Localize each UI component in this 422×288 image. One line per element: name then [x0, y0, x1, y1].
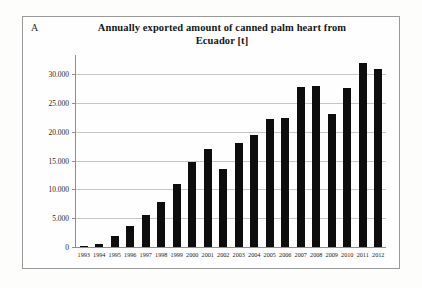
bar	[126, 226, 134, 247]
x-axis-label: 2008	[310, 251, 322, 258]
x-axis-label: 1996	[124, 251, 136, 258]
bar	[157, 202, 165, 247]
bar	[111, 236, 119, 248]
bar-series	[76, 60, 386, 247]
bar	[374, 69, 382, 247]
y-axis-label: 10.000	[48, 185, 69, 194]
panel-label: A	[31, 22, 38, 33]
x-axis-label: 2006	[279, 251, 291, 258]
bar	[250, 135, 258, 247]
figure-container: A Annually exported amount of canned pal…	[0, 0, 422, 288]
bar	[219, 169, 227, 247]
plot-area: 05.00010.00015.00020.00025.00030.000 199…	[76, 60, 386, 247]
x-axis-label: 1993	[78, 251, 90, 258]
x-axis-label: 2007	[295, 251, 307, 258]
x-axis-label: 2011	[357, 251, 369, 258]
bar	[297, 87, 305, 247]
bar	[235, 143, 243, 247]
x-axis-label: 1999	[171, 251, 183, 258]
bar	[173, 184, 181, 247]
y-axis-label: 5.000	[52, 214, 69, 223]
y-axis-label: 20.000	[48, 127, 69, 136]
bar	[312, 86, 320, 247]
chart-title-line-2: Ecuador [t]	[57, 34, 387, 47]
bar	[328, 114, 336, 247]
x-axis-label: 2012	[372, 251, 384, 258]
y-axis-label: 0	[65, 243, 69, 252]
chart-title-line-1: Annually exported amount of canned palm …	[57, 21, 387, 34]
bar	[266, 119, 274, 247]
x-axis-label: 2010	[341, 251, 353, 258]
x-axis-label: 1997	[140, 251, 152, 258]
x-axis-label: 1994	[93, 251, 105, 258]
bar	[343, 88, 351, 247]
x-axis-label: 2005	[264, 251, 276, 258]
x-axis-label: 2009	[326, 251, 338, 258]
x-axis: 1993199419951996199719981999200020012002…	[76, 247, 386, 267]
bar	[142, 215, 150, 247]
y-axis-label: 25.000	[48, 99, 69, 108]
x-axis-label: 1998	[155, 251, 167, 258]
y-axis-label: 15.000	[48, 156, 69, 165]
chart-title: Annually exported amount of canned palm …	[57, 21, 387, 47]
x-axis-label: 2003	[233, 251, 245, 258]
bar	[359, 63, 367, 247]
x-axis-label: 1995	[109, 251, 121, 258]
x-axis-line	[75, 247, 386, 248]
bar	[281, 118, 289, 247]
x-axis-label: 2004	[248, 251, 260, 258]
x-axis-label: 2000	[186, 251, 198, 258]
x-axis-label: 2002	[217, 251, 229, 258]
y-axis-label: 30.000	[48, 70, 69, 79]
x-axis-label: 2001	[202, 251, 214, 258]
chart-frame: A Annually exported amount of canned pal…	[22, 16, 400, 269]
bar	[204, 149, 212, 247]
bar	[188, 162, 196, 247]
